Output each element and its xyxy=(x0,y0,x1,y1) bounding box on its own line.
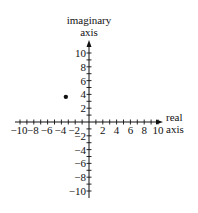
y-tick-label: −10 xyxy=(69,185,87,197)
x-tick-label: 2 xyxy=(100,124,106,136)
y-tick-label: 4 xyxy=(81,88,87,100)
data-point xyxy=(64,95,68,99)
y-tick-label: −6 xyxy=(74,157,86,169)
y-tick-label: −2 xyxy=(74,130,86,142)
y-tick-label: 2 xyxy=(81,102,87,114)
imaginary-axis-label-line1: imaginary xyxy=(67,14,112,26)
y-tick-label: −4 xyxy=(74,144,86,156)
y-tick-label: 6 xyxy=(81,75,87,87)
imaginary-axis-arrow-icon xyxy=(87,40,92,47)
real-axis-label-line1: real xyxy=(166,111,182,123)
x-tick-labels: −10−8−6−4−2246810 xyxy=(10,124,164,136)
x-tick-label: −8 xyxy=(27,124,39,136)
y-tick-label: −8 xyxy=(74,171,86,183)
x-tick-label: 6 xyxy=(128,124,134,136)
y-tick-label: 10 xyxy=(75,47,87,59)
x-tick-label: −10 xyxy=(10,124,28,136)
real-axis-label-line2: axis xyxy=(166,123,184,135)
imaginary-axis-label-line2: axis xyxy=(80,26,98,38)
x-tick-label: 10 xyxy=(153,124,165,136)
data-points xyxy=(64,95,68,99)
x-tick-label: −4 xyxy=(55,124,67,136)
x-tick-label: 4 xyxy=(114,124,120,136)
complex-plane-chart: −10−8−6−4−2246810 108642−2−4−6−8−10 imag… xyxy=(0,0,198,213)
x-tick-label: 8 xyxy=(141,124,147,136)
x-tick-label: −6 xyxy=(41,124,53,136)
y-tick-label: 8 xyxy=(81,61,87,73)
